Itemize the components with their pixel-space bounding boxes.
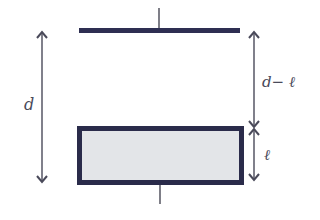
d-label: d (24, 95, 34, 114)
slab (80, 129, 242, 183)
capacitor-diagram: d d− ℓ ℓ (0, 0, 320, 220)
d-minus-l-dimension-arrow (249, 32, 259, 127)
l-label: ℓ (264, 146, 270, 164)
l-dimension-arrow (249, 129, 259, 180)
d-minus-l-label: d− ℓ (262, 73, 295, 91)
d-dimension-arrow (37, 32, 47, 182)
top-plate (79, 28, 240, 33)
